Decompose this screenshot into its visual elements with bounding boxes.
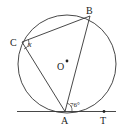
geometry-diagram: B C x O 76° A T	[0, 0, 126, 134]
label-t: T	[100, 115, 106, 126]
center-point	[66, 60, 69, 63]
chord-ab	[65, 16, 90, 112]
label-a: A	[61, 115, 69, 126]
point-t-dot	[103, 110, 106, 113]
label-o: O	[57, 61, 64, 72]
label-x: x	[27, 40, 32, 49]
circle	[18, 15, 116, 113]
chord-ca	[22, 42, 65, 112]
label-c: C	[10, 37, 17, 48]
label-b: B	[86, 5, 93, 16]
label-76: 76°	[70, 101, 80, 109]
